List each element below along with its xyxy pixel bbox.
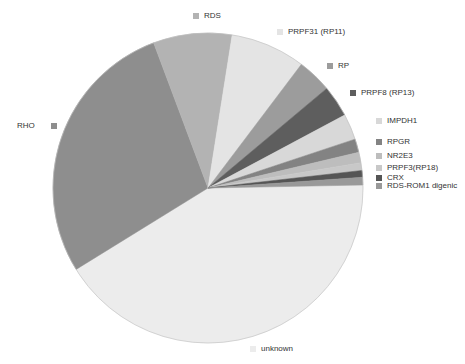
- legend-swatch: [376, 153, 382, 159]
- legend-swatch: [327, 63, 333, 69]
- legend-label: IMPDH1: [387, 117, 417, 125]
- legend-item-nr2e3: NR2E3: [376, 152, 413, 160]
- legend-item-rds: RDS: [193, 12, 221, 20]
- legend-swatch: [51, 123, 57, 129]
- legend-label: PRPF8 (RP13): [361, 89, 414, 97]
- legend-item-rds-rom1-digenic: RDS-ROM1 digenic: [376, 182, 457, 190]
- legend-item-rho: RHO: [17, 122, 57, 130]
- legend-label: RDS: [204, 12, 221, 20]
- legend-label: unknown: [261, 345, 293, 353]
- legend-label: RDS-ROM1 digenic: [387, 182, 457, 190]
- legend-item-rp: RP: [327, 62, 349, 70]
- legend-swatch: [277, 29, 283, 35]
- legend-swatch: [376, 165, 382, 171]
- legend-item-prpf31-rp11: PRPF31 (RP11): [277, 28, 345, 36]
- legend-item-prpf8-rp13: PRPF8 (RP13): [350, 89, 414, 97]
- legend-label: RHO: [17, 122, 35, 130]
- legend-swatch: [350, 90, 356, 96]
- legend-label: NR2E3: [387, 152, 413, 160]
- legend-label: RPGR: [387, 138, 410, 146]
- legend-item-impdh1: IMPDH1: [376, 117, 417, 125]
- legend-item-prpf3-rp18: PRPF3(RP18): [376, 164, 438, 172]
- legend-swatch: [376, 139, 382, 145]
- legend-swatch: [193, 13, 199, 19]
- legend-item-unknown: unknown: [250, 345, 293, 353]
- legend-label: RP: [338, 62, 349, 70]
- legend-swatch: [250, 346, 256, 352]
- legend-label: PRPF31 (RP11): [288, 28, 345, 36]
- legend-swatch: [376, 175, 382, 181]
- legend-item-rpgr: RPGR: [376, 138, 410, 146]
- pie-slices: [53, 33, 363, 343]
- legend-label: PRPF3(RP18): [387, 164, 438, 172]
- legend-swatch: [376, 183, 382, 189]
- legend-swatch: [376, 118, 382, 124]
